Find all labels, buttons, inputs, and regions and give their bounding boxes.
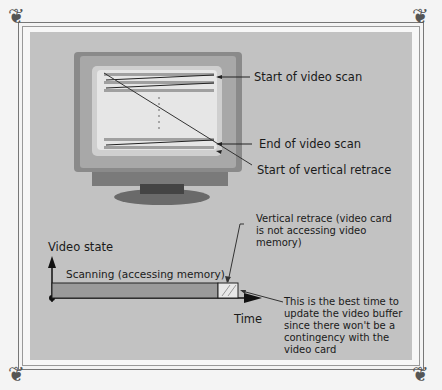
end-scan-label: End of video scan bbox=[259, 137, 361, 151]
x-axis-label: Time bbox=[234, 312, 262, 326]
scanning-label: Scanning (accessing memory) bbox=[66, 268, 225, 280]
monitor-icon bbox=[74, 52, 252, 205]
start-scan-label: Start of video scan bbox=[254, 70, 362, 84]
best-time-note: This is the best time to update the vide… bbox=[284, 296, 412, 356]
y-axis-label: Video state bbox=[48, 240, 113, 254]
start-retrace-label: Start of vertical retrace bbox=[257, 163, 391, 177]
timeline-chart bbox=[48, 224, 283, 303]
retrace-label: Vertical retrace (video card is not acce… bbox=[256, 213, 396, 249]
